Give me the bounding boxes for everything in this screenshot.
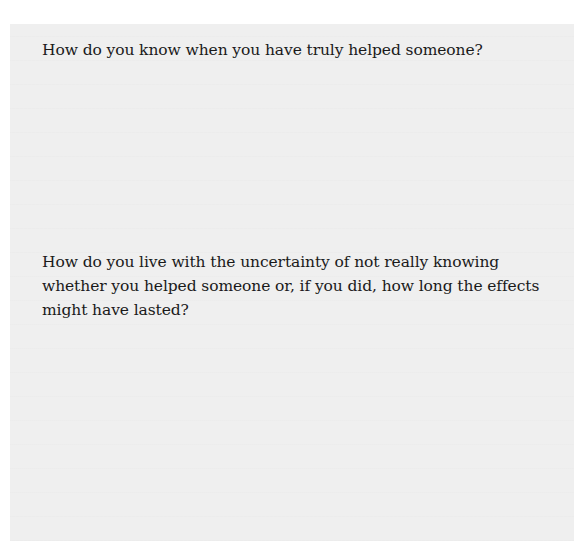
question-1: How do you know when you have truly help… (42, 38, 542, 62)
question-box: How do you know when you have truly help… (10, 24, 574, 541)
question-2: How do you live with the uncertainty of … (42, 250, 542, 322)
